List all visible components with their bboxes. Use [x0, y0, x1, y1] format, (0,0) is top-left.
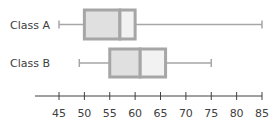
box-plot-class-b: Class B [10, 49, 211, 77]
tick-label: 70 [179, 107, 193, 120]
tick-label: 75 [204, 107, 218, 120]
lower-box [84, 10, 120, 39]
upper-box [120, 10, 135, 39]
tick-label: 45 [52, 107, 66, 120]
tick-label: 60 [128, 107, 142, 120]
lower-box [110, 49, 140, 77]
tick-label: 80 [230, 107, 244, 120]
upper-box [140, 49, 165, 77]
box-plot-area: Class AClass B [10, 10, 262, 77]
box-plot-chart: Class AClass B 455055606570758085 [0, 0, 277, 130]
tick-label: 50 [77, 107, 91, 120]
box-plot-class-a: Class A [10, 10, 262, 39]
tick-label: 65 [154, 107, 168, 120]
tick-label: 55 [103, 107, 117, 120]
x-axis: 455055606570758085 [35, 92, 269, 120]
category-label: Class A [10, 19, 50, 32]
tick-label: 85 [255, 107, 269, 120]
category-label: Class B [10, 57, 50, 70]
